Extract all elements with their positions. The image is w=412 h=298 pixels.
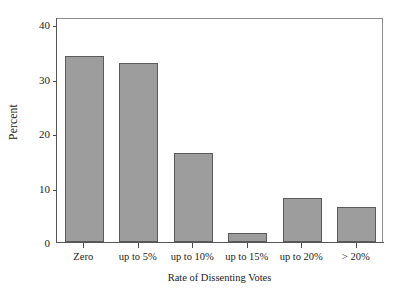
x-axis-title: Rate of Dissenting Votes (56, 272, 383, 283)
plot-area (56, 18, 383, 243)
y-axis-title-text: Percent (7, 104, 19, 140)
x-axis-tick-mark (192, 243, 193, 248)
y-axis-tick-label: 40 (22, 20, 56, 31)
bar (174, 153, 213, 242)
x-axis-tick-marks (56, 243, 383, 249)
x-axis-tick-mark (138, 243, 139, 248)
x-axis-tick-label: up to 10% (171, 250, 214, 263)
x-axis-tick-mark (247, 243, 248, 248)
x-axis-tick-label: Zero (73, 250, 93, 263)
x-axis-tick-label: up to 20% (280, 250, 323, 263)
y-axis-tick-label: 0 (22, 238, 56, 249)
bar (65, 56, 104, 242)
y-axis-tick-label: 20 (22, 129, 56, 140)
y-axis-line (56, 18, 57, 243)
x-axis-tick-label: up to 5% (119, 250, 157, 263)
x-axis-tick-mark (356, 243, 357, 248)
x-axis-tick-mark (301, 243, 302, 248)
bar (119, 63, 158, 242)
y-axis-tick-label: 10 (22, 183, 56, 194)
y-axis-title: Percent (2, 0, 24, 243)
y-axis-tick-label: 30 (22, 74, 56, 85)
bar (283, 198, 322, 242)
bar-chart-figure: Percent 010203040 Zeroup to 5%up to 10%u… (0, 0, 412, 298)
y-axis-tick-labels: 010203040 (22, 0, 56, 298)
x-axis-tick-label: > 20% (342, 250, 370, 263)
bar (337, 207, 376, 242)
x-axis-tick-label: up to 15% (225, 250, 268, 263)
bar (228, 233, 267, 242)
x-axis-tick-labels: Zeroup to 5%up to 10%up to 15%up to 20%>… (56, 250, 383, 266)
x-axis-tick-mark (83, 243, 84, 248)
